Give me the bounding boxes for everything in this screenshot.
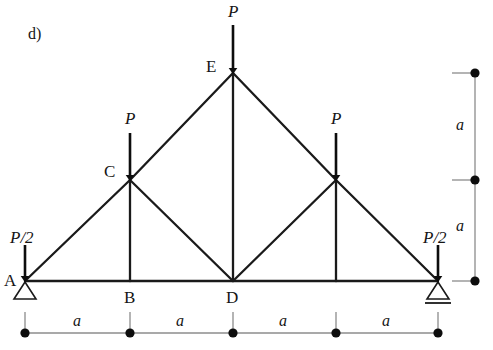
node-label-E: E — [206, 58, 216, 75]
node-label-A: A — [4, 272, 16, 289]
truss-member-c-d — [130, 180, 233, 281]
load-at-A-label: P/2 — [10, 229, 34, 246]
pin-support-A — [14, 282, 36, 299]
vertical-dimension-dot-1 — [470, 175, 479, 184]
truss-drawing-canvas — [0, 0, 493, 350]
horizontal-dimension-dot-2 — [228, 328, 237, 337]
truss-member-e-h — [233, 73, 336, 180]
load-at-C-label: P — [125, 110, 135, 127]
vertical-dimension-dot-2 — [470, 276, 479, 285]
horizontal-span-label-0: a — [73, 313, 81, 329]
horizontal-span-label-1: a — [176, 313, 184, 329]
horizontal-dimension-dot-4 — [433, 328, 442, 337]
roller-support-G — [425, 282, 451, 303]
part-label: d) — [28, 26, 41, 42]
load-arrows-group — [25, 25, 438, 279]
node-label-B: B — [124, 289, 135, 306]
load-at-E-label: P — [228, 3, 238, 20]
horizontal-dimension-dot-0 — [20, 328, 29, 337]
horizontal-dimension-dot-1 — [125, 328, 134, 337]
truss-diagram-figure: d) ABDCEP/2PPPP/2aaaaaa — [0, 0, 493, 350]
horizontal-span-label-3: a — [382, 313, 390, 329]
dimension-lines-group — [20, 68, 479, 337]
horizontal-dimension-dot-3 — [331, 328, 340, 337]
vertical-dimension-dot-0 — [470, 68, 479, 77]
node-label-D: D — [226, 289, 238, 306]
truss-member-d-h — [233, 180, 336, 281]
load-at-G-label: P/2 — [423, 229, 447, 246]
truss-member-c-e — [130, 73, 233, 180]
truss-members-group — [25, 73, 438, 281]
horizontal-span-label-2: a — [279, 313, 287, 329]
node-label-C: C — [104, 163, 115, 180]
vertical-span-label-0: a — [456, 117, 464, 133]
load-at-H-label: P — [331, 110, 341, 127]
vertical-span-label-1: a — [456, 218, 464, 234]
truss-member-a-c — [25, 180, 130, 281]
